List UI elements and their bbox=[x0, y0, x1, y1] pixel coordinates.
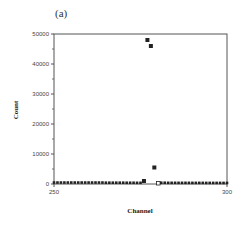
data-point bbox=[56, 181, 59, 184]
y-axis: 01000020000300004000050000 bbox=[32, 31, 54, 187]
data-point bbox=[145, 38, 149, 42]
data-point bbox=[139, 182, 142, 185]
data-point bbox=[60, 181, 63, 184]
data-point bbox=[177, 182, 180, 185]
data-point bbox=[53, 181, 56, 184]
x-axis: 250300 bbox=[49, 184, 233, 195]
data-point bbox=[191, 182, 194, 185]
data-point bbox=[167, 182, 170, 185]
data-point bbox=[105, 181, 108, 184]
data-point bbox=[184, 182, 187, 185]
data-point bbox=[160, 181, 163, 184]
y-tick-label: 40000 bbox=[32, 61, 49, 67]
data-point bbox=[70, 181, 73, 184]
data-point bbox=[163, 181, 166, 184]
x-tick-label: 250 bbox=[49, 189, 60, 195]
data-point bbox=[212, 182, 215, 185]
data-point bbox=[174, 182, 177, 185]
y-tick-label: 20000 bbox=[32, 121, 49, 127]
data-point bbox=[67, 181, 70, 184]
data-point bbox=[157, 181, 161, 185]
data-point bbox=[108, 181, 111, 184]
data-point bbox=[87, 181, 90, 184]
data-point bbox=[118, 181, 121, 184]
data-point bbox=[170, 182, 173, 185]
data-point bbox=[112, 181, 115, 184]
y-tick-label: 0 bbox=[46, 181, 50, 187]
data-point bbox=[115, 181, 118, 184]
data-point bbox=[188, 182, 191, 185]
data-point bbox=[91, 181, 94, 184]
x-axis-title: Channel bbox=[127, 207, 152, 215]
data-point bbox=[132, 181, 135, 184]
x-tick-label: 300 bbox=[222, 189, 233, 195]
data-point bbox=[136, 182, 139, 185]
data-point bbox=[152, 166, 156, 170]
data-point bbox=[129, 181, 132, 184]
data-point bbox=[101, 181, 104, 184]
data-point bbox=[142, 179, 146, 183]
y-tick-label: 30000 bbox=[32, 91, 49, 97]
data-point bbox=[226, 182, 229, 185]
data-point bbox=[149, 44, 153, 48]
y-axis-title: Count bbox=[12, 100, 20, 119]
y-tick-label: 10000 bbox=[32, 151, 49, 157]
data-point bbox=[205, 182, 208, 185]
data-point bbox=[98, 181, 101, 184]
data-point bbox=[215, 182, 218, 185]
data-point bbox=[63, 181, 66, 184]
scatter-chart: 01000020000300004000050000 250300 Channe… bbox=[0, 0, 243, 227]
data-point bbox=[122, 181, 125, 184]
data-point bbox=[94, 181, 97, 184]
data-point bbox=[73, 181, 76, 184]
data-point bbox=[77, 181, 80, 184]
data-point bbox=[80, 181, 83, 184]
data-point bbox=[201, 182, 204, 185]
data-point bbox=[219, 182, 222, 185]
data-point bbox=[195, 182, 198, 185]
data-point bbox=[125, 181, 128, 184]
data-point bbox=[222, 182, 225, 185]
plot-frame bbox=[54, 34, 227, 184]
data-point bbox=[208, 182, 211, 185]
y-tick-label: 50000 bbox=[32, 31, 49, 37]
data-point bbox=[84, 181, 87, 184]
data-point bbox=[198, 182, 201, 185]
data-point bbox=[181, 182, 184, 185]
data-points bbox=[53, 38, 229, 185]
